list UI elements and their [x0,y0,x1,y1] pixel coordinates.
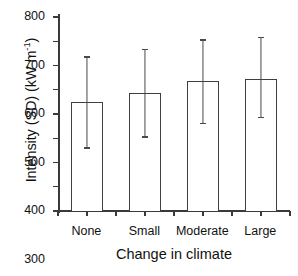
plot-area: 0100200300400500600700800 NoneSmallModer… [58,17,290,211]
x-tick: Large [260,211,261,216]
y-tick-label: 600 [24,106,45,120]
y-tick: 600 [53,65,58,66]
error-bar-cap-upper [258,37,264,38]
error-bar-cap-lower [142,136,148,137]
x-axis-title: Change in climate [58,246,290,262]
y-tick: 100 [53,186,58,187]
error-bar-cap-lower [84,147,90,148]
y-axis-title-exponent: -1 [21,42,32,50]
x-tick: None [86,211,87,216]
y-tick: 800 [53,16,58,17]
y-tick-label: 700 [24,58,45,72]
error-bar-cap-lower [258,117,264,118]
y-axis-title-tail: ) [23,38,39,43]
error-bar-line [144,50,145,137]
y-tick: 300 [53,138,58,139]
x-tick-label: Moderate [176,224,229,238]
y-tick-label: 500 [24,155,45,169]
x-tick [115,211,116,216]
y-tick-label: 300 [24,252,45,266]
x-tick [231,211,232,216]
x-tick: Small [144,211,145,216]
error-bar-line [202,40,203,124]
error-bar-cap-lower [200,123,206,124]
y-tick-label: 400 [24,203,45,217]
x-tick: Moderate [202,211,203,216]
x-tick [173,211,174,216]
error-bar-cap-upper [200,39,206,40]
y-tick: 200 [53,162,58,163]
y-tick: 700 [53,41,58,42]
y-tick-label: 800 [24,9,45,23]
x-tick-label: Large [244,224,276,238]
error-bar-line [86,57,87,148]
bar-chart-figure: Intensity (SD) (kW m-1) 0100200300400500… [0,0,298,276]
y-tick: 500 [53,89,58,90]
x-tick-label: Small [129,224,160,238]
y-tick: 400 [53,113,58,114]
x-tick [289,211,290,216]
error-bar-cap-upper [84,56,90,57]
x-tick [57,211,58,216]
x-tick-label: None [71,224,101,238]
error-bar-line [260,38,261,118]
error-bar-cap-upper [142,49,148,50]
y-axis-line [58,14,60,213]
